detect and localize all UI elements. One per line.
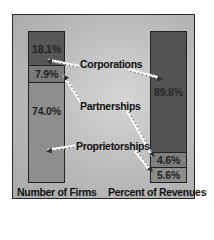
category-label-percent-of-revenues: Percent of Revenues [108, 186, 206, 198]
callout-corporations: Corporations [80, 58, 142, 70]
category-label-number-of-firms: Number of Firms [17, 186, 97, 198]
arrow-corporations-left [48, 60, 78, 66]
callout-proprietorships: Proprietorships [76, 140, 150, 152]
arrow-proprietorships-right [136, 152, 150, 170]
callout-partnerships: Partnerships [80, 100, 141, 112]
arrow-corporations-right [130, 70, 160, 78]
